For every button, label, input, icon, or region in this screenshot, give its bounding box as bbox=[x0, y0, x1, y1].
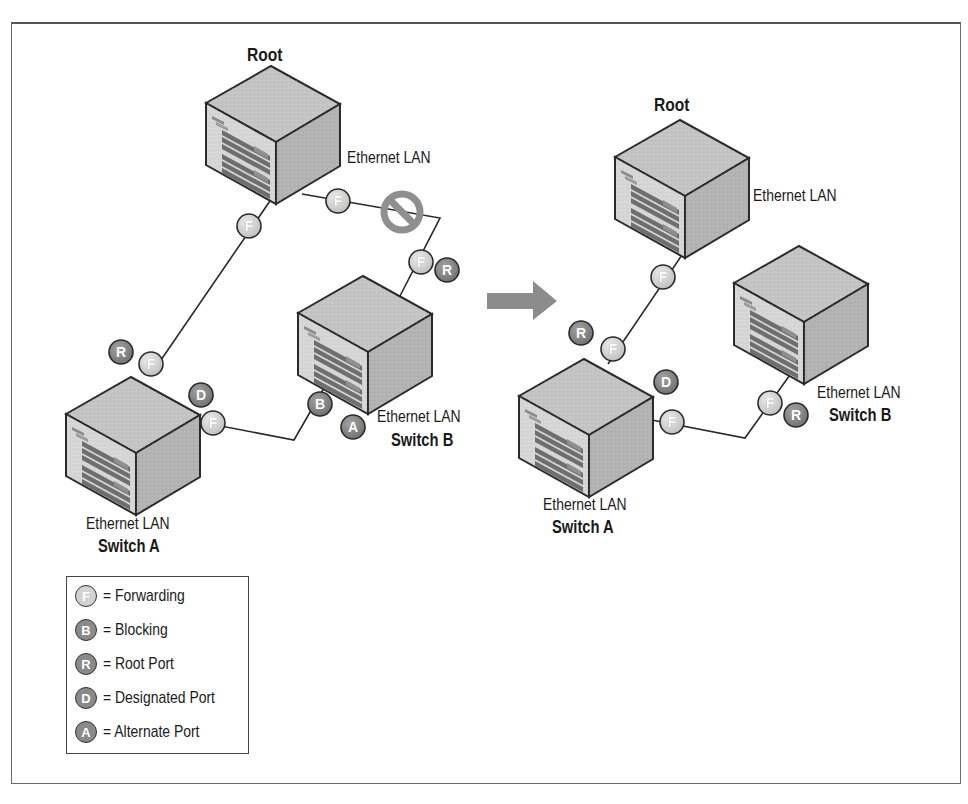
legend: F = Forwarding B = Blocking R = Root Por… bbox=[66, 576, 249, 754]
after-port-root-to-a-letter: F bbox=[651, 265, 675, 289]
before-port-root-to-b-letter: F bbox=[326, 189, 350, 213]
after-root-switch bbox=[615, 120, 749, 258]
legend-label: = Designated Port bbox=[103, 688, 215, 708]
after-switch-a-lan-label: Ethernet LAN bbox=[543, 495, 627, 515]
before-port-a-right-d-letter: D bbox=[189, 383, 213, 407]
before-root-switch bbox=[206, 66, 340, 204]
designated-port-icon: D bbox=[75, 687, 97, 709]
after-port-b-lower-r-letter: R bbox=[784, 403, 808, 427]
before-port-b-upper-r-letter: R bbox=[435, 258, 459, 282]
after-switch-b bbox=[734, 246, 868, 384]
before-port-b-lower-b-letter: B bbox=[308, 392, 332, 416]
after-root-title: Root bbox=[654, 94, 689, 116]
before-switch-a bbox=[66, 377, 200, 515]
before-switch-b-lan-label: Ethernet LAN bbox=[377, 407, 461, 427]
before-port-root-to-a-letter: F bbox=[237, 214, 261, 238]
after-port-a-right-f-letter: F bbox=[660, 410, 684, 434]
root-port-icon: R bbox=[75, 653, 97, 675]
no-entry-icon bbox=[384, 194, 420, 230]
legend-item-alternate-port: A = Alternate Port bbox=[75, 717, 221, 747]
before-switch-a-lan-label: Ethernet LAN bbox=[86, 514, 170, 534]
legend-label: = Root Port bbox=[103, 654, 174, 674]
after-switch-a-name: Switch A bbox=[552, 517, 614, 538]
legend-item-forwarding: F = Forwarding bbox=[75, 581, 203, 611]
legend-item-root-port: R = Root Port bbox=[75, 649, 189, 679]
after-root-lan-label: Ethernet LAN bbox=[753, 186, 837, 206]
legend-label: = Forwarding bbox=[103, 586, 185, 606]
before-root-lan-label: Ethernet LAN bbox=[347, 148, 431, 168]
after-switch-b-lan-label: Ethernet LAN bbox=[817, 383, 901, 403]
legend-label: = Alternate Port bbox=[103, 722, 199, 742]
after-port-a-right-d-letter: D bbox=[654, 370, 678, 394]
after-port-b-lower-f-letter: F bbox=[758, 391, 782, 415]
right-arrow-icon bbox=[487, 281, 557, 320]
before-port-a-upper-r-letter: R bbox=[109, 340, 133, 364]
before-port-b-lower-a-letter: A bbox=[341, 415, 365, 439]
after-switch-b-name: Switch B bbox=[829, 405, 891, 426]
after-port-a-upper-f-letter: F bbox=[601, 337, 625, 361]
blocking-port-icon: B bbox=[75, 619, 97, 641]
before-switch-a-name: Switch A bbox=[98, 536, 160, 557]
after-port-a-upper-r-letter: R bbox=[569, 321, 593, 345]
after-switch-a bbox=[519, 359, 653, 497]
legend-item-designated-port: D = Designated Port bbox=[75, 683, 240, 713]
before-port-a-right-f-letter: F bbox=[201, 411, 225, 435]
before-port-a-upper-f-letter: F bbox=[139, 352, 163, 376]
legend-item-blocking: B = Blocking bbox=[75, 615, 182, 645]
before-root-title: Root bbox=[247, 44, 282, 66]
before-switch-b-name: Switch B bbox=[391, 430, 453, 451]
legend-label: = Blocking bbox=[103, 620, 168, 640]
alternate-port-icon: A bbox=[75, 721, 97, 743]
before-port-b-upper-f-letter: F bbox=[409, 250, 433, 274]
forwarding-port-icon: F bbox=[75, 585, 97, 607]
